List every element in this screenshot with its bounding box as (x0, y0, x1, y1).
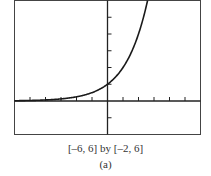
figure-sublabel: (a) (0, 158, 211, 170)
graph-plot (0, 0, 211, 140)
viewing-window-caption: [–6, 6] by [–2, 6] (0, 142, 211, 154)
